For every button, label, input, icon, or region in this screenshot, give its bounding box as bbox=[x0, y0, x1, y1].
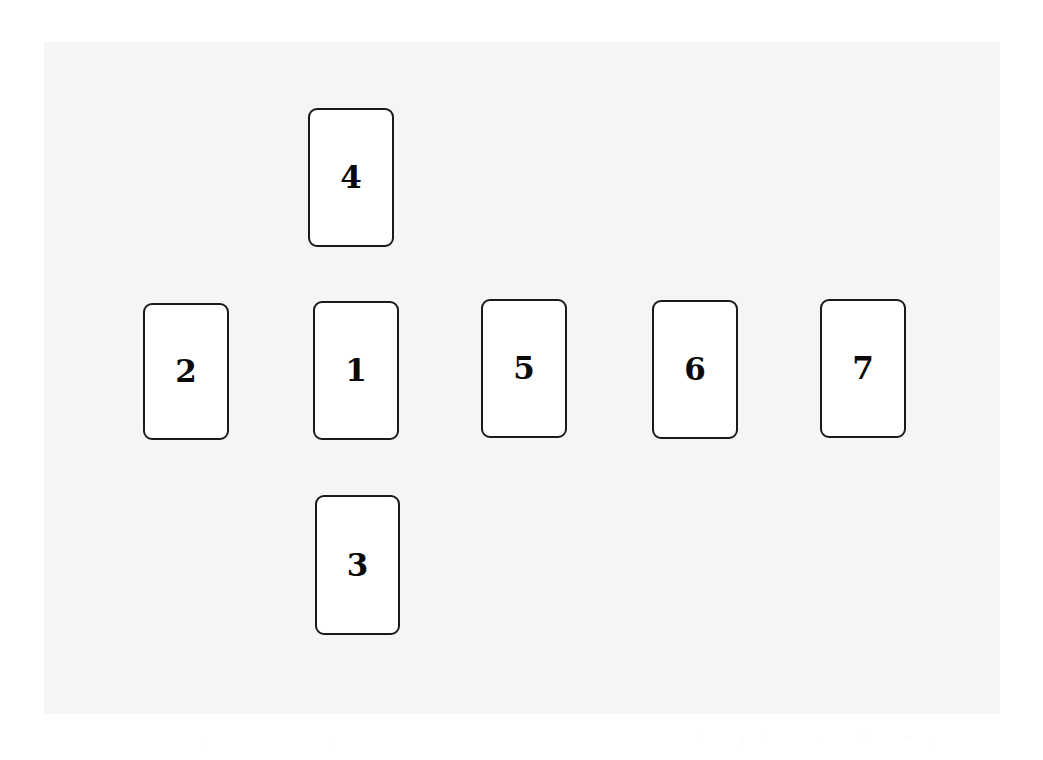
card-6[interactable]: 6 bbox=[652, 300, 738, 439]
screenshot-canvas: 4215673 bbox=[0, 0, 1043, 760]
card-2-label: 2 bbox=[175, 356, 197, 387]
card-4[interactable]: 4 bbox=[308, 108, 394, 247]
card-5-label: 5 bbox=[513, 353, 535, 384]
card-4-label: 4 bbox=[340, 162, 362, 193]
card-7[interactable]: 7 bbox=[820, 299, 906, 438]
card-5[interactable]: 5 bbox=[481, 299, 567, 438]
card-3[interactable]: 3 bbox=[315, 495, 400, 635]
card-2[interactable]: 2 bbox=[143, 303, 229, 440]
card-3-label: 3 bbox=[347, 550, 369, 581]
card-1[interactable]: 1 bbox=[313, 301, 399, 440]
card-1-label: 1 bbox=[345, 355, 367, 386]
card-7-label: 7 bbox=[852, 353, 874, 384]
card-6-label: 6 bbox=[684, 354, 706, 385]
